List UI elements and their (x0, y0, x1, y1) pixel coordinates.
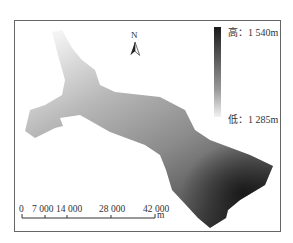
legend-high-label: 高：1 540m (228, 24, 278, 39)
legend-low-label: 低：1 285m (228, 111, 278, 126)
scale-bar (22, 214, 155, 218)
scale-tick-1: 7 000 (32, 204, 53, 214)
scale-tick-3: 28 000 (99, 204, 125, 214)
scale-tick-0: 0 (19, 204, 24, 214)
elevation-legend-bar (214, 27, 221, 117)
scale-tick-2: 14 000 (56, 204, 82, 214)
north-arrow-icon (128, 42, 142, 62)
north-label: N (131, 30, 138, 40)
scale-unit: m (157, 210, 164, 220)
